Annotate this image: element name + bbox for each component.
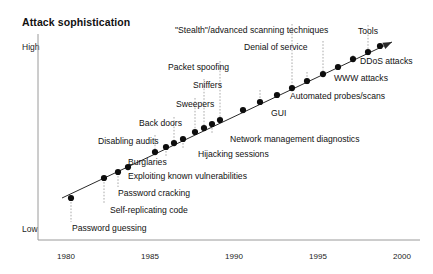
data-point bbox=[217, 117, 223, 123]
attack-label: Automated probes/scans bbox=[290, 92, 385, 101]
data-point bbox=[201, 125, 207, 131]
attack-label: Disabling audits bbox=[98, 137, 159, 146]
data-point bbox=[377, 43, 383, 49]
data-point bbox=[115, 169, 121, 175]
attack-sophistication-chart: Attack sophistication High Low 198019851… bbox=[0, 0, 433, 274]
data-point bbox=[101, 175, 107, 181]
x-tick-label: 1995 bbox=[309, 252, 327, 261]
attack-label: Tools bbox=[358, 27, 378, 36]
data-point bbox=[180, 136, 186, 142]
x-tick-label: 1990 bbox=[225, 252, 243, 261]
attack-label: Back doors bbox=[139, 119, 182, 128]
attack-label: GUI bbox=[271, 109, 286, 118]
data-point bbox=[320, 71, 326, 77]
attack-label: Burglaries bbox=[128, 158, 167, 167]
data-point bbox=[257, 99, 263, 105]
data-point bbox=[171, 140, 177, 146]
attack-label: Sweepers bbox=[176, 100, 214, 109]
data-point bbox=[209, 121, 215, 127]
x-tick-label: 1980 bbox=[57, 252, 75, 261]
data-point bbox=[192, 129, 198, 135]
x-tick-label: 2000 bbox=[393, 252, 411, 261]
attack-label: WWW attacks bbox=[334, 74, 388, 83]
attack-label: DDoS attacks bbox=[360, 57, 413, 66]
x-tick-label: 1985 bbox=[141, 252, 159, 261]
attack-label: Password cracking bbox=[118, 189, 190, 198]
attack-label: Password guessing bbox=[72, 224, 147, 233]
data-point bbox=[152, 149, 158, 155]
attack-label: "Stealth"/advanced scanning techniques bbox=[175, 26, 328, 35]
attack-label: Network management diagnostics bbox=[230, 135, 359, 144]
trend-arrowhead bbox=[382, 42, 392, 49]
attack-label: Denial of service bbox=[244, 43, 308, 52]
data-point bbox=[240, 107, 246, 113]
data-point bbox=[304, 78, 310, 84]
data-point bbox=[365, 49, 371, 55]
attack-label: Sniffers bbox=[193, 81, 222, 90]
data-point bbox=[68, 195, 74, 201]
data-point bbox=[163, 144, 169, 150]
attack-label: Packet spoofing bbox=[168, 63, 229, 72]
plot-area bbox=[0, 0, 433, 274]
data-point bbox=[335, 64, 341, 70]
attack-label: Self-replicating code bbox=[110, 206, 188, 215]
attack-label: Hijacking sessions bbox=[198, 150, 269, 159]
attack-label: Exploiting known vulnerabilities bbox=[128, 172, 247, 181]
data-point bbox=[274, 92, 280, 98]
data-point bbox=[350, 56, 356, 62]
